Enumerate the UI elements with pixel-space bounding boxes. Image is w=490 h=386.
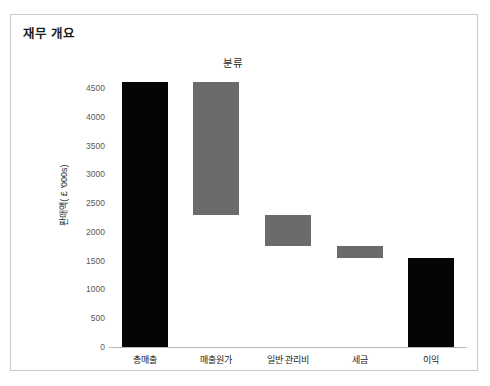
y-tick-label: 3000 <box>69 169 105 179</box>
y-tick-label: 4000 <box>69 112 105 122</box>
y-tick-label: 500 <box>69 313 105 323</box>
x-tick-label: 일반 관리비 <box>267 353 310 366</box>
x-tick-label: 세금 <box>352 353 368 366</box>
x-tick-label: 매출원가 <box>200 353 232 366</box>
y-tick-label: 0 <box>69 342 105 352</box>
y-tick-label: 3500 <box>69 141 105 151</box>
bar-4[interactable] <box>337 246 383 258</box>
bar-series: 총매출매출원가일반 관리비세금이익 <box>109 15 467 372</box>
bar-5[interactable] <box>408 258 454 347</box>
y-tick-label: 1000 <box>69 284 105 294</box>
y-tick-label: 2500 <box>69 198 105 208</box>
y-tick-label: 1500 <box>69 256 105 266</box>
bar-2[interactable] <box>193 82 239 214</box>
x-tick-label: 총매출 <box>133 353 157 366</box>
x-tick-label: 이익 <box>423 353 439 366</box>
bar-1[interactable] <box>122 82 168 347</box>
bar-3[interactable] <box>265 215 311 247</box>
y-tick-label: 4500 <box>69 83 105 93</box>
waterfall-chart: 분류 판매액( £ '000s) 05001000150020002500300… <box>11 15 479 372</box>
y-tick-label: 2000 <box>69 227 105 237</box>
financial-overview-panel: 재무 개요 분류 판매액( £ '000s) 05001000150020002… <box>10 14 478 371</box>
